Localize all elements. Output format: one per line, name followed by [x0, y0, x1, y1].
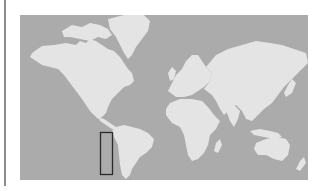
- landmass-australia: [254, 137, 290, 161]
- highlight-box-chile: [101, 133, 113, 175]
- landmass-south-america: [112, 125, 154, 179]
- landmass-new-zealand: [296, 157, 306, 171]
- landmass-madagascar: [214, 139, 222, 153]
- world-locator-map: [20, 15, 308, 180]
- landmass-arctic-islands: [62, 23, 112, 41]
- left-border-rule: [4, 0, 6, 186]
- world-map-svg: [20, 15, 308, 180]
- landmass-north-america: [30, 39, 134, 119]
- landmass-india: [226, 105, 240, 127]
- landmass-africa: [166, 99, 220, 161]
